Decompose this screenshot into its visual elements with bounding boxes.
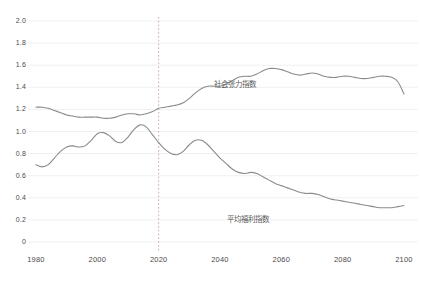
y-axis-tick-label: 0.8 xyxy=(0,150,26,157)
y-axis-tick-label: 0.4 xyxy=(0,194,26,201)
y-axis-tick-label: 0.6 xyxy=(0,172,26,179)
y-axis-tick-label: 1.4 xyxy=(0,83,26,90)
x-axis-tick-label: 2000 xyxy=(77,255,117,264)
line-chart-plot xyxy=(0,0,422,293)
y-axis-tick-label: 0.2 xyxy=(0,216,26,223)
series-line-0 xyxy=(36,68,404,118)
y-axis-tick-label: 1.8 xyxy=(0,39,26,46)
chart-container: 00.20.40.60.81.01.21.41.61.82.0 19802000… xyxy=(0,0,422,293)
series-label-0: 社会张力指数 xyxy=(214,78,256,89)
x-axis-tick-label: 2100 xyxy=(384,255,422,264)
y-axis-tick-label: 1.0 xyxy=(0,128,26,135)
y-axis-tick-label: 1.6 xyxy=(0,61,26,68)
y-axis-tick-label: 2.0 xyxy=(0,17,26,24)
x-axis-tick-label: 2060 xyxy=(261,255,301,264)
x-axis-tick-label: 1980 xyxy=(16,255,56,264)
y-axis-tick-label: 0 xyxy=(0,238,26,245)
x-axis-tick-label: 2080 xyxy=(323,255,363,264)
x-axis-tick-label: 2040 xyxy=(200,255,240,264)
y-axis-tick-label: 1.2 xyxy=(0,105,26,112)
x-axis-tick-label: 2020 xyxy=(139,255,179,264)
series-line-1 xyxy=(36,125,404,208)
series-label-1: 平均福利指数 xyxy=(227,213,269,224)
